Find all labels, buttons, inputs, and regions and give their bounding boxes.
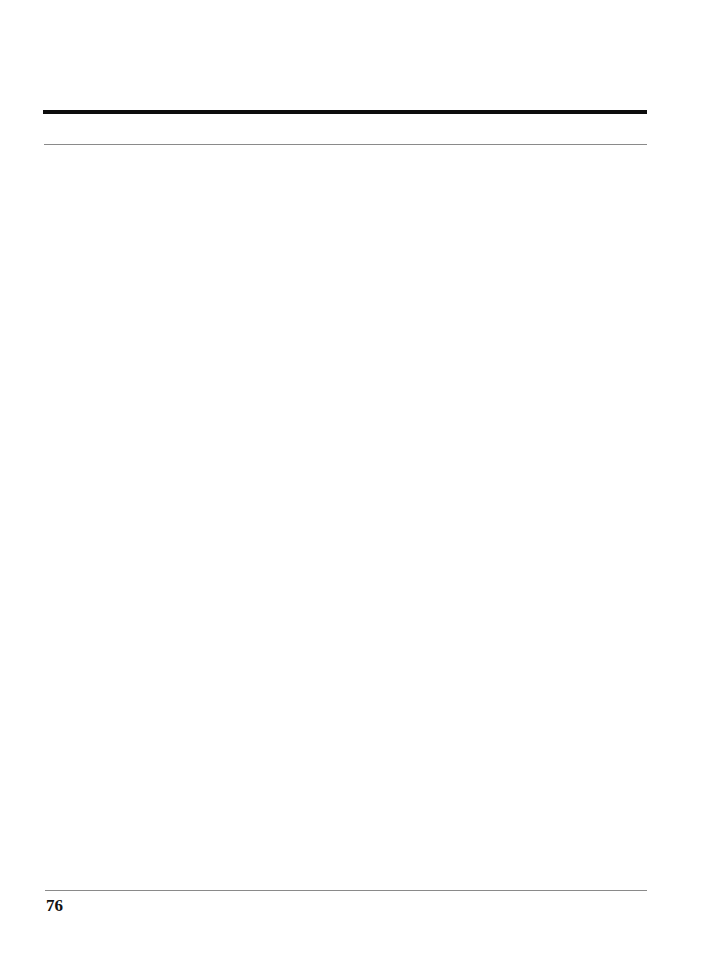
page-body-blank: [44, 150, 647, 885]
header-rule-thin: [44, 144, 647, 145]
header-rule-thick: [43, 110, 647, 114]
page-number: 76: [46, 896, 63, 916]
document-page: 76: [0, 0, 702, 961]
footer-rule: [45, 890, 647, 891]
